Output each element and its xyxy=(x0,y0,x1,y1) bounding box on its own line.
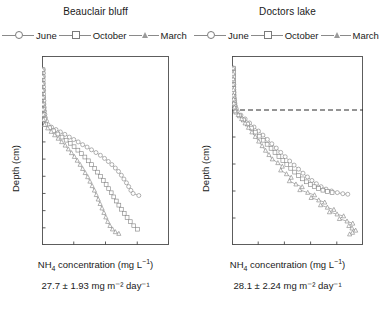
legend-line xyxy=(194,35,207,36)
legend-right: June October March xyxy=(194,28,381,42)
legend-item-october: October xyxy=(59,30,129,41)
legend-item-june: June xyxy=(194,30,251,41)
legend-line xyxy=(251,35,264,36)
legend-item-march: March xyxy=(129,30,189,41)
legend-item-october: October xyxy=(251,30,321,41)
panel-doctors-lake: Doctors lake June October March Depth xyxy=(192,0,383,311)
plot-svg: −20−15−10−505101520253035010203040 xyxy=(42,56,169,245)
legend-line xyxy=(2,35,15,36)
legend-line xyxy=(148,35,159,36)
legend-item-march: March xyxy=(321,30,381,41)
x-label-nh: NH xyxy=(38,259,52,270)
legend-left: June October March xyxy=(2,28,189,42)
panel-title: Beauclair bluff xyxy=(0,6,191,17)
legend-line xyxy=(215,35,226,36)
legend-label-october: October xyxy=(91,30,129,41)
legend-label-march: March xyxy=(351,30,381,41)
x-label-sup: −1 xyxy=(142,258,150,265)
legend-line xyxy=(129,35,142,36)
legend-line xyxy=(23,35,34,36)
legend-line xyxy=(340,35,351,36)
panel-beauclair-bluff: Beauclair bluff June October March De xyxy=(0,0,191,311)
legend-line xyxy=(80,35,91,36)
plot-area-doctors: −20−100102030405001020304050 xyxy=(232,56,363,245)
x-label-end: ) xyxy=(150,259,153,270)
x-label-mid: concentration (mg L xyxy=(247,259,334,270)
x-axis-label: NH4 concentration (mg L−1) xyxy=(192,258,383,272)
square-marker-icon xyxy=(264,31,272,39)
x-label-end: ) xyxy=(342,259,345,270)
figure-container: Beauclair bluff June October March De xyxy=(0,0,383,311)
triangle-marker-icon xyxy=(334,32,340,38)
legend-item-june: June xyxy=(2,30,59,41)
flux-value-doctors: 28.1 ± 2.24 mg m⁻² day⁻¹ xyxy=(192,280,383,291)
legend-line xyxy=(59,35,72,36)
y-axis-label: Depth (cm) xyxy=(10,145,21,192)
circle-marker-icon xyxy=(15,31,23,39)
legend-label-june: June xyxy=(34,30,59,41)
circle-marker-icon xyxy=(207,31,215,39)
legend-label-june: June xyxy=(226,30,251,41)
x-label-sup: −1 xyxy=(334,258,342,265)
legend-line xyxy=(321,35,334,36)
square-marker-icon xyxy=(72,31,80,39)
legend-line xyxy=(272,35,283,36)
x-axis-label: NH4 concentration (mg L−1) xyxy=(0,258,191,272)
flux-value-beauclair: 27.7 ± 1.93 mg m⁻² day⁻¹ xyxy=(0,280,191,291)
legend-label-october: October xyxy=(283,30,321,41)
legend-label-march: March xyxy=(159,30,189,41)
panel-title: Doctors lake xyxy=(192,6,383,17)
x-label-nh: NH xyxy=(230,259,244,270)
triangle-marker-icon xyxy=(142,32,148,38)
plot-area-beauclair: −20−15−10−505101520253035010203040 xyxy=(42,56,169,245)
x-label-mid: concentration (mg L xyxy=(55,259,142,270)
plot-svg: −20−100102030405001020304050 xyxy=(232,56,363,245)
y-axis-label: Depth (cm) xyxy=(200,145,211,192)
